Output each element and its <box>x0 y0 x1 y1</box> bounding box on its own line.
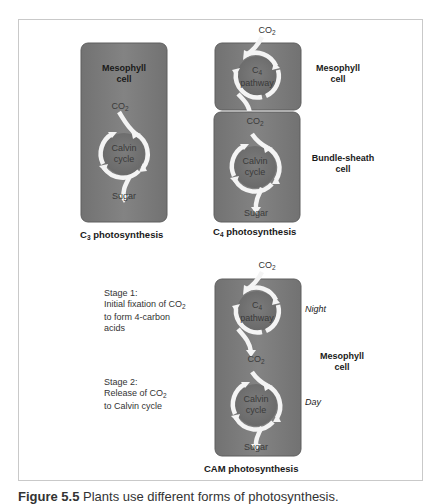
c4-top-co2-label: CO2 <box>247 25 287 38</box>
cam-calvin-cycle-label: Calvincycle <box>236 394 276 416</box>
cam-title: CAM photosynthesis <box>204 463 298 474</box>
night-label: Night <box>305 304 326 315</box>
day-label: Day <box>305 397 321 408</box>
c3-cell-label: Mesophyll cell <box>81 63 167 85</box>
c4-mesophyll-label: Mesophyllcell <box>305 63 371 85</box>
cam-top-co2-label: CO2 <box>247 260 287 273</box>
c4-title: C4 photosynthesis <box>213 226 296 240</box>
c4-calvin-cycle-label: Calvincycle <box>235 156 275 178</box>
cam-mid-co2-label: CO2 <box>236 354 276 367</box>
c3-co2-label: CO2 <box>100 101 140 114</box>
cam-pathway-label: C4 pathway <box>237 300 277 324</box>
cam-mesophyll-label: Mesophyllcell <box>314 351 370 373</box>
c4-mid-co2-label: CO2 <box>235 116 275 129</box>
c3-calvin-cycle-label: Calvincycle <box>104 143 144 165</box>
cam-sugar-label: Sugar <box>236 442 276 453</box>
figure-caption: Figure 5.5 Plants use different forms of… <box>18 489 339 504</box>
c4-pathway-label: C4 pathway <box>237 65 277 89</box>
c3-title: C3 photosynthesis <box>80 229 163 243</box>
stage2-description: Stage 2: Release of CO2 to Calvin cycle <box>104 377 167 412</box>
c4-bundle-sheath-label: Bundle-sheathcell <box>303 153 383 175</box>
c3-cell-label-line2: cell <box>81 74 167 85</box>
c3-cell-label-line1: Mesophyll <box>81 63 167 74</box>
c4-sugar-label: Sugar <box>236 208 276 219</box>
c3-sugar-label: Sugar <box>104 191 144 202</box>
stage1-description: Stage 1: Initial fixation of CO2 to form… <box>104 288 186 334</box>
